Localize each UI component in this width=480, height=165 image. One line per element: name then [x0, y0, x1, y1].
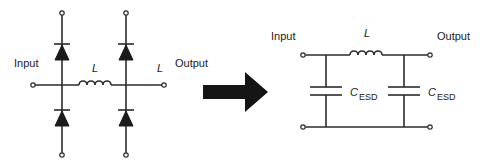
svg-text:ESD: ESD — [359, 92, 378, 102]
svg-text:C: C — [428, 86, 436, 98]
output-terminal — [162, 83, 166, 87]
diode-d3-icon — [118, 44, 134, 60]
terminal-top-right — [124, 11, 128, 15]
input-terminal — [31, 83, 35, 87]
input-terminal-bottom — [301, 125, 305, 129]
capacitor-c1-icon — [310, 55, 342, 127]
inductor-label-eq: L — [364, 27, 370, 39]
terminal-bottom-left — [60, 153, 64, 157]
inductor-symbol — [79, 81, 111, 85]
capacitor-c2-icon — [388, 55, 420, 127]
inductor-label: L — [92, 62, 98, 74]
inductor-label-right: L — [157, 62, 163, 74]
svg-text:ESD: ESD — [437, 92, 456, 102]
cap-label-right: C ESD — [428, 86, 456, 102]
output-terminal-bottom — [428, 125, 432, 129]
cap-label-left: C ESD — [350, 86, 378, 102]
right-circuit: Input L Output C ESD C ESD — [271, 27, 470, 129]
output-label: Output — [175, 57, 208, 69]
diode-d2-icon — [54, 110, 70, 126]
output-terminal-top — [428, 53, 432, 57]
input-label: Input — [14, 57, 38, 69]
input-label-right: Input — [271, 30, 295, 42]
terminal-top-left — [60, 11, 64, 15]
input-terminal-top — [301, 53, 305, 57]
terminal-bottom-right — [124, 153, 128, 157]
diode-d1-icon — [54, 44, 70, 60]
diode-d4-icon — [118, 110, 134, 126]
equivalence-arrow-icon — [203, 72, 268, 112]
circuit-diagram: Input L L Output — [0, 0, 480, 165]
output-label-right: Output — [437, 30, 470, 42]
svg-text:C: C — [350, 86, 358, 98]
left-circuit: Input L L Output — [14, 11, 208, 157]
inductor-symbol-right — [350, 51, 382, 55]
